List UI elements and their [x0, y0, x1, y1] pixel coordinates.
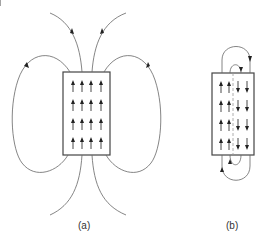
domain-diagram: [0, 0, 265, 239]
panel-b: [212, 47, 254, 181]
panel-a: [0, 0, 161, 215]
magnet-a: [63, 72, 110, 155]
panel-b-caption: (b): [226, 220, 238, 231]
panel-a-caption: (a): [78, 220, 90, 231]
magnetization-arrows-a: [0, 0, 2, 6]
field-arrowheads-a: [24, 28, 150, 68]
